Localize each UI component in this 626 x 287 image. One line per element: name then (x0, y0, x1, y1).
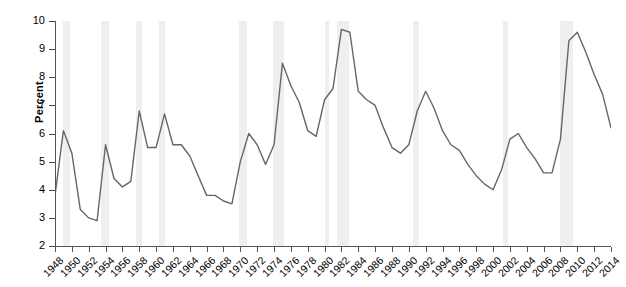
y-axis-spine (55, 21, 56, 246)
y-tick-label: 5 (0, 155, 45, 167)
y-tick-label: 6 (0, 127, 45, 139)
x-tick-mark (173, 247, 174, 252)
y-tick-label: 9 (0, 42, 45, 54)
x-tick-mark (544, 247, 545, 252)
y-tick-mark (49, 218, 55, 219)
y-tick-label: 7 (0, 98, 45, 110)
x-tick-mark (55, 247, 56, 252)
x-tick-mark (190, 247, 191, 252)
y-tick-label: 8 (0, 70, 45, 82)
x-tick-mark (392, 247, 393, 252)
x-tick-mark (611, 247, 612, 252)
x-tick-mark (89, 247, 90, 252)
x-tick-mark (476, 247, 477, 252)
y-tick-label: 10 (0, 14, 45, 26)
x-tick-mark (510, 247, 511, 252)
x-tick-mark (375, 247, 376, 252)
plot-area (55, 21, 611, 246)
series-line (55, 21, 611, 246)
x-tick-mark (139, 247, 140, 252)
x-tick-mark (560, 247, 561, 252)
x-tick-mark (594, 247, 595, 252)
x-tick-mark (443, 247, 444, 252)
y-tick-mark (49, 134, 55, 135)
x-tick-mark (308, 247, 309, 252)
x-tick-mark (527, 247, 528, 252)
y-tick-label: 3 (0, 211, 45, 223)
x-tick-mark (274, 247, 275, 252)
x-tick-mark (426, 247, 427, 252)
x-tick-mark (106, 247, 107, 252)
x-tick-mark (577, 247, 578, 252)
x-tick-mark (122, 247, 123, 252)
x-tick-mark (358, 247, 359, 252)
x-tick-mark (240, 247, 241, 252)
x-tick-mark (291, 247, 292, 252)
x-tick-mark (156, 247, 157, 252)
x-tick-mark (207, 247, 208, 252)
x-tick-mark (72, 247, 73, 252)
y-tick-mark (49, 162, 55, 163)
y-tick-mark (49, 190, 55, 191)
unemployment-line-chart: Percent 2345678910 194819501952195419561… (0, 0, 626, 287)
y-tick-label: 4 (0, 183, 45, 195)
y-tick-mark (49, 77, 55, 78)
y-tick-mark (49, 105, 55, 106)
y-tick-mark (49, 49, 55, 50)
x-tick-mark (257, 247, 258, 252)
x-tick-mark (493, 247, 494, 252)
y-tick-mark (49, 21, 55, 22)
x-tick-mark (459, 247, 460, 252)
x-tick-mark (325, 247, 326, 252)
x-tick-mark (341, 247, 342, 252)
x-tick-mark (409, 247, 410, 252)
x-tick-mark (223, 247, 224, 252)
y-tick-label: 2 (0, 239, 45, 251)
